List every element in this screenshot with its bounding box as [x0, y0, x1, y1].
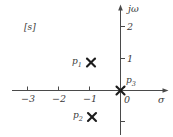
- s-plane-pole-plot: [s] jω σ −3 −2 −1 2 1 0 p1 p2 p3: [0, 0, 173, 137]
- origin-label: 0: [124, 95, 130, 105]
- pole-label-p1: p1: [72, 57, 82, 68]
- imag-tick-label-1: 1: [127, 54, 133, 64]
- pole-label-p3-subscript: 3: [132, 80, 136, 88]
- imaginary-axis: [118, 5, 123, 136]
- real-tick-label-minus2: −2: [52, 94, 66, 104]
- s-plane-label: [s]: [24, 23, 36, 32]
- pole-label-p2-subscript: 2: [79, 115, 83, 123]
- real-tick-label-minus1: −1: [83, 94, 97, 104]
- real-axis-label: σ: [158, 95, 165, 105]
- pole-marker-p1: [87, 59, 95, 67]
- plot-canvas: [0, 0, 173, 137]
- imaginary-axis-label: jω: [128, 4, 139, 14]
- imag-tick-label-2: 2: [127, 22, 133, 32]
- pole-label-p1-subscript: 1: [78, 61, 82, 69]
- pole-marker-p2: [88, 113, 96, 121]
- pole-label-p3: p3: [126, 76, 136, 87]
- real-tick-label-minus3: −3: [21, 94, 35, 104]
- pole-label-p2: p2: [73, 111, 83, 122]
- imaginary-axis-ticks: [121, 27, 126, 122]
- real-axis-ticks: [28, 87, 90, 91]
